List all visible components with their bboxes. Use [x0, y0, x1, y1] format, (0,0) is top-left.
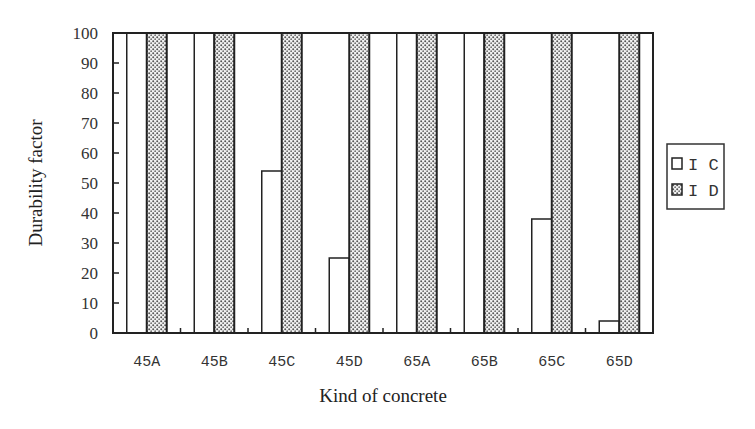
legend-id-swatch-icon: [672, 184, 682, 195]
y-tick-label: 20: [81, 264, 98, 283]
bar-id-65b: [484, 33, 504, 333]
y-tick-label: 0: [90, 324, 99, 343]
y-tick-label: 30: [81, 234, 98, 253]
bar-ic-65c: [532, 219, 552, 333]
x-tick-label: 45B: [201, 354, 228, 371]
bar-ic-65a: [397, 33, 417, 333]
bar-ic-45d: [329, 258, 349, 333]
y-tick-label: 50: [81, 174, 98, 193]
bar-ic-65d: [599, 321, 619, 333]
bar-id-45a: [147, 33, 167, 333]
x-axis: 45A45B45C45D65A65B65C65D: [133, 328, 633, 371]
y-tick-label: 10: [81, 294, 98, 313]
y-tick-label: 90: [81, 54, 98, 73]
plot-area: [113, 33, 653, 333]
bar-id-65d: [619, 33, 639, 333]
y-tick-label: 80: [81, 84, 98, 103]
bar-id-45b: [214, 33, 234, 333]
legend-id-label: I D: [688, 182, 719, 201]
y-tick-label: 100: [73, 24, 99, 43]
bar-id-45d: [349, 33, 369, 333]
x-tick-label: 65A: [403, 354, 430, 371]
x-tick-label: 65D: [606, 354, 633, 371]
bar-id-45c: [282, 33, 302, 333]
legend-ic-label: I C: [688, 156, 719, 175]
y-tick-label: 40: [81, 204, 98, 223]
x-tick-label: 45D: [336, 354, 363, 371]
x-axis-title: Kind of concrete: [319, 385, 447, 406]
bar-ic-45b: [194, 33, 214, 333]
x-tick-label: 45A: [133, 354, 160, 371]
bar-ic-45a: [127, 33, 147, 333]
x-tick-label: 65B: [471, 354, 498, 371]
bar-id-65c: [552, 33, 572, 333]
legend: I C I D: [667, 144, 724, 209]
y-tick-label: 70: [81, 114, 98, 133]
bar-chart: 0102030405060708090100 45A45B45C45D65A65…: [0, 0, 755, 429]
legend-ic-swatch-icon: [672, 158, 682, 169]
bar-id-65a: [417, 33, 437, 333]
x-tick-label: 65C: [538, 354, 565, 371]
y-axis-title: Durability factor: [25, 119, 46, 247]
x-tick-label: 45C: [268, 354, 295, 371]
y-tick-label: 60: [81, 144, 98, 163]
bar-ic-45c: [262, 171, 282, 333]
bar-ic-65b: [464, 33, 484, 333]
